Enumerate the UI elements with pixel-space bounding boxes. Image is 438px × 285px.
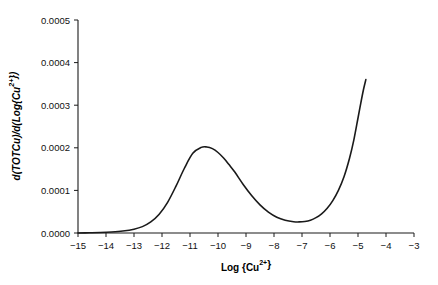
y-axis-title: d(TOTCu)/d(Log{Cu2+}) bbox=[8, 71, 23, 181]
data-series-curve bbox=[78, 80, 366, 233]
x-tick-label: −3 bbox=[409, 240, 420, 251]
x-axis-ticks bbox=[78, 233, 414, 237]
y-tick-label: 0.0004 bbox=[41, 57, 70, 68]
chart-canvas: 0.00000.00010.00020.00030.00040.0005 −15… bbox=[0, 0, 438, 285]
x-tick-label: −12 bbox=[154, 240, 170, 251]
x-tick-label: −10 bbox=[210, 240, 226, 251]
y-tick-label: 0.0005 bbox=[41, 15, 70, 26]
x-tick-label: −5 bbox=[353, 240, 364, 251]
x-tick-label: −8 bbox=[269, 240, 280, 251]
y-axis-ticks bbox=[74, 20, 78, 233]
y-tick-label: 0.0003 bbox=[41, 100, 70, 111]
x-tick-label: −4 bbox=[381, 240, 392, 251]
chart-figure: 0.00000.00010.00020.00030.00040.0005 −15… bbox=[0, 0, 438, 285]
y-tick-label: 0.0001 bbox=[41, 185, 70, 196]
x-axis-tick-labels: −15−14−13−12−11−10−9−8−7−6−5−4−3 bbox=[70, 240, 419, 251]
x-tick-label: −11 bbox=[182, 240, 197, 251]
y-axis-tick-labels: 0.00000.00010.00020.00030.00040.0005 bbox=[41, 15, 70, 239]
x-tick-label: −15 bbox=[70, 240, 86, 251]
x-tick-label: −13 bbox=[126, 240, 142, 251]
x-tick-label: −9 bbox=[241, 240, 252, 251]
x-tick-label: −6 bbox=[325, 240, 336, 251]
y-tick-label: 0.0000 bbox=[41, 228, 70, 239]
x-tick-label: −7 bbox=[297, 240, 308, 251]
y-tick-label: 0.0002 bbox=[41, 142, 70, 153]
x-axis-title: Log {Cu2+} bbox=[221, 259, 271, 274]
x-tick-label: −14 bbox=[98, 240, 114, 251]
